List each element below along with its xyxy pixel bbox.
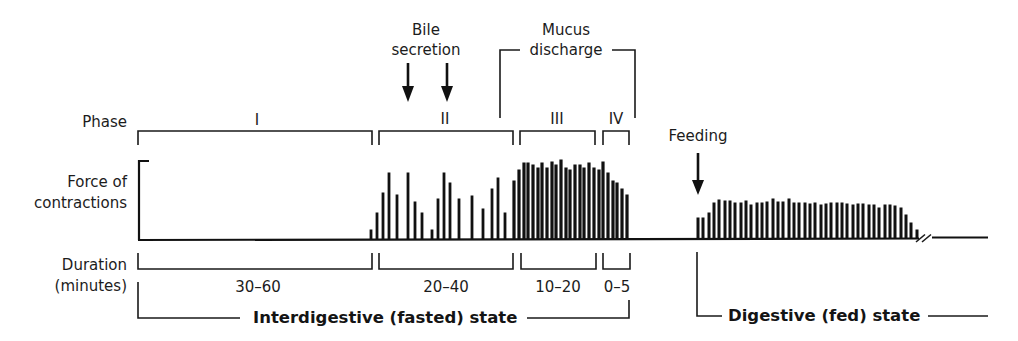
contraction-bar [482,209,485,240]
contraction-bar [857,204,860,239]
contraction-bar [713,203,716,239]
phase-label: I [255,111,259,129]
arrow-down-icon [692,153,704,195]
contraction-bar [804,203,807,239]
contraction-bar [582,168,585,240]
duration-value: 10–20 [535,278,581,296]
contraction-bar [894,206,897,239]
contraction-bar [517,170,520,240]
contraction-bar [370,230,373,240]
contraction-bar [766,202,769,239]
contraction-bar [884,205,887,239]
bar-group-phase-iii [512,160,600,240]
mucus-label-line2: discharge [529,41,602,59]
mucus-discharge-annotation: Mucus discharge [500,21,635,118]
contraction-bar [862,204,865,239]
contraction-bar [620,189,623,240]
contraction-bar [820,205,823,239]
duration-label-line2: (minutes) [55,277,127,295]
contraction-bar [905,215,908,239]
contraction-bar [873,205,876,239]
contraction-bar [396,195,399,240]
phase-bracket-II: II [379,110,513,145]
contraction-bar [788,199,791,239]
contraction-bar [830,203,833,239]
contraction-bar [868,205,871,239]
contraction-bar [718,200,721,239]
motility-diagram: Bile secretion Mucus discharge Feeding P… [0,0,1018,341]
fasted-state-label: Interdigestive (fasted) state [253,308,517,327]
contraction-bar [550,162,553,240]
phase-label: II [441,110,450,128]
phase-bracket-IV: IV [603,110,629,145]
contraction-bar [545,168,548,240]
contraction-bar [512,181,515,240]
contraction-bar [471,196,474,240]
contraction-bar [564,168,567,240]
contraction-bar [437,199,440,240]
bar-group-fed-state [697,199,919,239]
contraction-bar [750,205,753,239]
contraction-bar [772,199,775,239]
contraction-bar [431,230,434,240]
contraction-bar [761,203,764,239]
contraction-bar [382,193,385,240]
fed-state-bracket: Digestive (fed) state [697,252,988,325]
contraction-bar [836,203,839,239]
force-label-line2: contractions [34,194,127,212]
duration-bracket-III: 10–20 [521,253,596,296]
contraction-bar [916,230,919,239]
duration-label-line1: Duration [62,256,127,274]
duration-value: 20–40 [423,278,469,296]
contraction-bar [809,204,812,239]
fed-state-label: Digestive (fed) state [728,306,920,325]
contraction-bar [491,189,494,240]
contraction-bar [526,163,529,240]
duration-bracket-II: 20–40 [379,253,513,296]
contraction-bar [531,165,534,240]
contraction-bar [777,202,780,239]
bile-secretion-annotation: Bile secretion [391,21,460,102]
phase-row-label: Phase [82,113,127,131]
contraction-bar [852,205,855,239]
contraction-bar [388,173,391,240]
contraction-bar [782,202,785,239]
contraction-bar [841,203,844,239]
contraction-bar [536,168,539,240]
contraction-bar [414,202,417,240]
contraction-bar [597,170,600,240]
contraction-bar [540,163,543,240]
contraction-bar [497,178,500,240]
contraction-bar [825,204,828,239]
contraction-bar [568,170,571,240]
contraction-bar [814,203,817,239]
contraction-bar [734,203,737,239]
contraction-bar [559,160,562,240]
contraction-bar [522,163,525,240]
contraction-bar [708,213,711,239]
contraction-bar [578,165,581,240]
contraction-bar [889,205,892,239]
contraction-bar [421,213,424,240]
y-axis [139,161,149,240]
contraction-bar [756,203,759,239]
contraction-bar [504,213,507,240]
contraction-bar [601,162,604,240]
contraction-bar [697,218,700,239]
contraction-bar [443,173,446,240]
duration-bracket-I: 30–60 [138,253,372,296]
mucus-bracket-left [500,50,520,118]
contraction-bar [592,168,595,240]
contraction-bar [798,203,801,239]
contraction-bar [554,165,557,240]
contraction-bar [407,173,410,240]
phase-bracket-I: I [138,111,372,145]
contraction-bar [793,203,796,239]
bile-label-line1: Bile [412,21,440,39]
bar-group-phase-iv [601,162,628,240]
contraction-bar [611,181,614,240]
contraction-bar [702,218,705,239]
contraction-bar [449,183,452,240]
contraction-bar [615,183,618,240]
contraction-bar [587,163,590,240]
